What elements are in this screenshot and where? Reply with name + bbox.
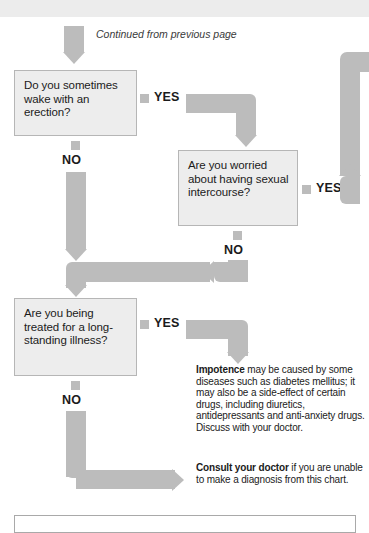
q3-yes-arrowhead: [227, 352, 249, 364]
no-marker-q3: [71, 381, 80, 390]
entry-arrow-head: [63, 52, 85, 64]
yes-label-q3: YES: [154, 316, 180, 330]
yes-marker-q3: [140, 320, 149, 329]
no-label-q1: NO: [62, 153, 81, 167]
question-text: Do you sometimes wake with an erection?: [24, 79, 131, 120]
yes-marker-q1: [140, 94, 149, 103]
advice-impotence-lead: Impotence: [196, 364, 245, 375]
advice-consult-lead: Consult your doctor: [196, 462, 289, 473]
question-box-long-standing-illness: Are you being treated for a long-standin…: [14, 298, 137, 376]
q3-no-shaft-h: [76, 470, 175, 489]
q2-no-corner: [214, 262, 248, 282]
yes-label-q1: YES: [154, 90, 180, 104]
entry-arrow-shaft: [64, 26, 84, 52]
q1-no-shaft: [66, 172, 86, 250]
right-riser-bottom-corner: [340, 176, 360, 204]
top-band: [0, 0, 369, 17]
merge-bar-horizontal: [76, 262, 210, 282]
no-label-q2: NO: [224, 243, 243, 257]
question-box-worried-intercourse: Are you worried about having sexual inte…: [178, 150, 298, 226]
yes-label-q2: YES: [316, 181, 342, 195]
question-box-wake-erection: Do you sometimes wake with an erection?: [14, 70, 137, 136]
right-riser-arrowhead: [339, 164, 361, 176]
question-text: Are you being treated for a long-standin…: [24, 307, 131, 348]
q1-yes-arrowhead: [235, 135, 257, 147]
q3-yes-corner: [228, 320, 248, 356]
right-riser-top-corner: [340, 52, 369, 72]
no-marker-q1: [71, 141, 80, 150]
q1-no-arrowhead: [65, 249, 87, 261]
question-text: Are you worried about having sexual inte…: [188, 159, 292, 200]
no-marker-q2: [233, 231, 242, 240]
right-riser-shaft: [340, 72, 360, 176]
continued-note: Continued from previous page: [96, 28, 237, 40]
yes-marker-q2: [302, 185, 311, 194]
merge-arrowhead: [65, 285, 87, 297]
advice-impotence: Impotence may be caused by some diseases…: [196, 364, 366, 434]
no-label-q3: NO: [62, 393, 81, 407]
q3-no-arrowhead: [172, 469, 184, 491]
q1-yes-shaft-v: [236, 100, 256, 136]
bottom-frame: [14, 515, 356, 533]
advice-consult-doctor: Consult your doctor if you are unable to…: [196, 462, 366, 485]
flowchart-page: Continued from previous page Do you some…: [0, 0, 369, 533]
